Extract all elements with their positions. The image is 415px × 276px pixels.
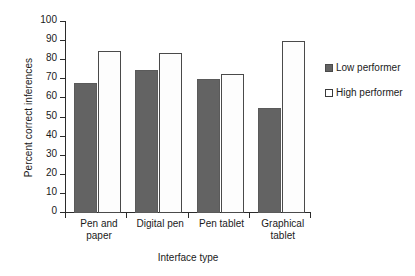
- bar-high-performer: [282, 41, 305, 213]
- bar-group: Digital pen: [126, 22, 187, 213]
- legend-swatch-icon: [325, 89, 333, 97]
- y-tick-label: 30: [46, 148, 57, 159]
- y-tick-label: 40: [46, 129, 57, 140]
- legend-swatch-icon: [325, 64, 333, 72]
- bar-high-performer: [221, 74, 244, 213]
- x-category-label-line: Graphical: [247, 218, 319, 230]
- legend-item: High performer: [325, 87, 403, 98]
- bar-low-performer: [197, 79, 220, 213]
- x-category-label-line: tablet: [247, 230, 319, 242]
- chart-legend: Low performerHigh performer: [325, 62, 403, 112]
- y-tick-label: 100: [40, 14, 57, 25]
- x-category-label-line: paper: [63, 230, 135, 242]
- bar-group: Graphicaltablet: [249, 22, 310, 213]
- bar-group: Pen tablet: [188, 22, 249, 213]
- y-tick-label: 20: [46, 167, 57, 178]
- bar-high-performer: [159, 53, 182, 213]
- bar-low-performer: [74, 83, 97, 213]
- bar-chart-figure: Percent correct inferences 0102030405060…: [0, 0, 415, 276]
- y-tick-label: 90: [46, 33, 57, 44]
- y-tick-label: 10: [46, 186, 57, 197]
- bar-group: Pen andpaper: [65, 22, 126, 213]
- y-tick-label: 0: [51, 205, 57, 216]
- bar-low-performer: [135, 70, 158, 213]
- legend-label: Low performer: [336, 62, 400, 73]
- y-tick-label: 50: [46, 110, 57, 121]
- x-axis-title: Interface type: [65, 252, 311, 263]
- y-axis-title: Percent correct inferences: [23, 18, 34, 218]
- plot-area: 0102030405060708090100 Pen andpaperDigit…: [65, 22, 310, 213]
- y-tick-label: 60: [46, 90, 57, 101]
- legend-item: Low performer: [325, 62, 403, 73]
- x-category-label: Graphicaltablet: [247, 218, 319, 242]
- y-tick-label: 80: [46, 52, 57, 63]
- y-tick-label: 70: [46, 71, 57, 82]
- legend-label: High performer: [336, 87, 403, 98]
- bar-low-performer: [258, 108, 281, 213]
- bar-high-performer: [98, 51, 121, 213]
